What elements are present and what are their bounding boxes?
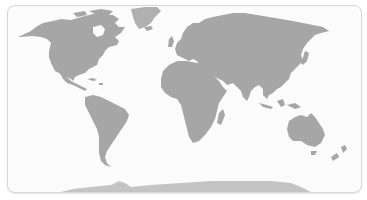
new-zealand [331,145,347,161]
north-america [18,13,125,81]
greenland [131,7,161,29]
indonesia [259,99,301,109]
map-frame [7,5,362,193]
world-map [8,6,361,192]
uk [168,36,174,47]
antarctica [61,181,311,192]
madagascar [217,109,225,125]
caribbean [87,78,103,85]
south-america [85,95,129,167]
japan [301,51,309,65]
australia [287,113,325,147]
